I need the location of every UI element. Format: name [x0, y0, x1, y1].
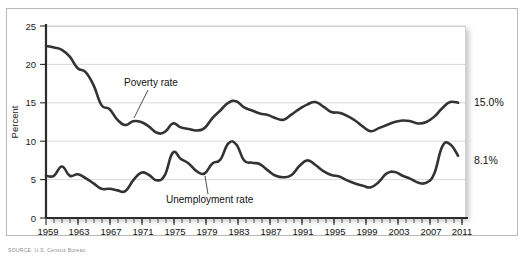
unemployment-rate-leader-line: [205, 176, 208, 194]
y-axis: 25 20 15 10 5 0 Percent: [9, 21, 46, 224]
y-axis-title: Percent: [9, 105, 20, 138]
unemployment-rate-end-label: 8.1%: [474, 154, 498, 166]
poverty-unemployment-figure: 25 20 15 10 5 0 Percent: [0, 0, 531, 260]
x-tick-label-1967: 1967: [100, 226, 121, 237]
x-tick-label-1963: 1963: [68, 226, 89, 237]
gridlines: [46, 26, 466, 180]
line-chart: 25 20 15 10 5 0 Percent: [0, 0, 531, 260]
x-tick-label-1971: 1971: [132, 226, 153, 237]
unemployment-rate-annotation-label: Unemployment rate: [166, 194, 254, 205]
x-tick-label-1987: 1987: [260, 226, 281, 237]
poverty-rate-line: [46, 46, 458, 134]
y-tick-label-5: 5: [31, 174, 36, 185]
x-tick-label-1983: 1983: [228, 226, 249, 237]
annotation-unemployment: Unemployment rate: [166, 176, 254, 205]
y-tick-label-0: 0: [31, 213, 36, 224]
x-axis: 1959 1963 1967 1971 1975 1979 1983 1987 …: [37, 218, 472, 237]
x-tick-label-1979: 1979: [196, 226, 217, 237]
source-note: SOURCE: U.S. Census Bureau: [8, 247, 158, 255]
x-tick-label-1975: 1975: [164, 226, 185, 237]
y-tick-label-10: 10: [25, 136, 36, 147]
unemployment-rate-line: [46, 141, 458, 192]
x-tick-label-2003: 2003: [388, 226, 409, 237]
y-tick-label-25: 25: [25, 21, 36, 32]
x-tick-label-2007: 2007: [420, 226, 441, 237]
x-tick-label-2011: 2011: [452, 226, 472, 237]
annotation-poverty: Poverty rate: [124, 77, 178, 118]
x-tick-label-1991: 1991: [292, 226, 313, 237]
poverty-rate-annotation-label: Poverty rate: [124, 77, 178, 88]
poverty-rate-leader-line: [134, 90, 148, 118]
x-tick-label-1999: 1999: [356, 226, 377, 237]
x-tick-label-1959: 1959: [37, 226, 58, 237]
y-tick-label-15: 15: [25, 97, 36, 108]
poverty-rate-end-label: 15.0%: [474, 96, 504, 108]
y-tick-label-20: 20: [25, 59, 36, 70]
x-tick-label-1995: 1995: [324, 226, 345, 237]
